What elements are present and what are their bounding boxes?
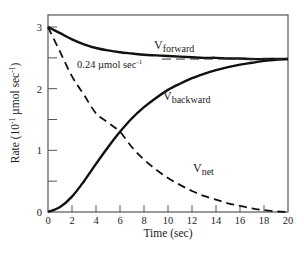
y-axis-label: Rate (10-1 µmol sec-1): [8, 63, 22, 164]
y-tick-label: 1: [37, 145, 42, 156]
y-tick-label: 0: [37, 207, 42, 218]
v-net-curve: [48, 27, 288, 212]
v-forward-label: Vforward: [154, 38, 194, 54]
x-tick-label: 6: [117, 215, 122, 226]
x-tick-label: 2: [69, 215, 74, 226]
x-tick-label: 0: [45, 215, 50, 226]
x-tick-label: 20: [283, 215, 294, 226]
y-tick-label: 3: [37, 22, 42, 33]
x-tick-label: 16: [235, 215, 246, 226]
v-backward-curve: [48, 59, 288, 212]
x-tick-label: 12: [187, 215, 198, 226]
x-tick-label: 4: [93, 215, 99, 226]
x-tick-label: 8: [141, 215, 146, 226]
x-tick-label: 14: [211, 215, 222, 226]
y-tick-label: 2: [37, 84, 42, 95]
v-backward-label: Vbackward: [163, 89, 211, 105]
curves: [48, 27, 288, 212]
x-tick-label: 18: [259, 215, 270, 226]
y-axis-ticks: 0123: [37, 22, 57, 218]
x-tick-label: 10: [163, 215, 174, 226]
v-net-label: Vnet: [193, 161, 214, 177]
rate-vs-time-chart: 02468101214161820 0123 Time (sec) Rate (…: [0, 0, 304, 254]
x-axis-label: Time (sec): [143, 227, 192, 240]
equilibrium-rate-annotation: 0.24 µmol sec-1: [77, 58, 143, 70]
